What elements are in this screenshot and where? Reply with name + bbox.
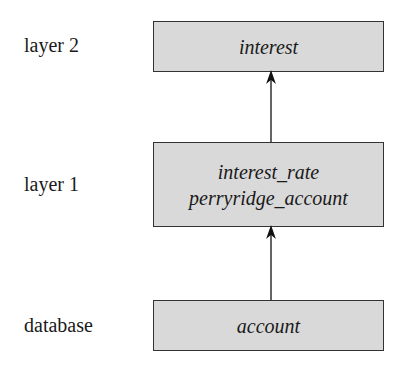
arrows bbox=[0, 0, 408, 380]
arrow-database-to-layer1 bbox=[268, 227, 275, 300]
arrow-layer1-to-layer2 bbox=[268, 72, 275, 142]
